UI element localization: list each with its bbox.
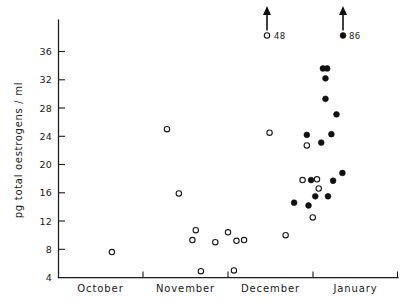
data-point-filled <box>330 178 336 184</box>
data-point-filled <box>291 200 297 206</box>
data-point-open <box>225 230 230 235</box>
scatter-plot: 36 32 28 24 20 16 12 8 4 pg total oestro… <box>0 0 411 308</box>
data-point-filled <box>318 140 324 146</box>
data-point-filled <box>324 66 330 72</box>
data-point-filled <box>334 111 340 117</box>
data-point-open <box>176 191 181 196</box>
x-axis-tick-labels: October November December January <box>77 283 377 294</box>
data-point-open <box>264 33 269 38</box>
data-point-open <box>314 177 319 182</box>
data-point-filled <box>329 131 335 137</box>
x-tick-label-january: January <box>332 283 377 294</box>
data-point-filled <box>325 193 331 199</box>
data-point-open <box>198 268 203 273</box>
y-tick-label-16: 16 <box>40 187 53 198</box>
annotation-offscale-48: 48 <box>263 6 286 41</box>
data-point-open <box>267 130 272 135</box>
chart-figure: 36 32 28 24 20 16 12 8 4 pg total oestro… <box>0 0 411 308</box>
y-tick-label-24: 24 <box>40 131 53 142</box>
y-tick-label-36: 36 <box>40 46 53 57</box>
y-tick-label-12: 12 <box>40 216 53 227</box>
annotation-offscale-86: 86 <box>339 6 361 41</box>
data-point-filled <box>340 170 346 176</box>
data-point-open <box>231 268 236 273</box>
data-point-open <box>283 232 288 237</box>
annotation-label-86: 86 <box>349 31 361 41</box>
data-point-open <box>164 126 169 131</box>
arrow-up-icon <box>339 6 347 15</box>
y-tick-label-4: 4 <box>46 272 52 283</box>
data-point-open <box>193 227 198 232</box>
x-tick-label-october: October <box>77 283 123 294</box>
arrow-up-icon <box>263 6 271 15</box>
data-point-filled <box>312 193 318 199</box>
data-point-open <box>300 177 305 182</box>
data-point-filled <box>306 203 312 209</box>
y-tick-label-8: 8 <box>46 244 52 255</box>
data-point-open <box>109 249 114 254</box>
data-point-open <box>213 239 218 244</box>
data-point-filled <box>323 75 329 81</box>
data-point-open <box>316 186 321 191</box>
y-axis-tick-labels: 36 32 28 24 20 16 12 8 4 <box>40 46 53 283</box>
y-tick-label-28: 28 <box>40 103 53 114</box>
y-axis-title: pg total oestrogens / ml <box>13 82 24 218</box>
x-axis-ticks <box>143 272 398 278</box>
y-tick-label-20: 20 <box>40 159 53 170</box>
data-point-open <box>234 238 239 243</box>
data-point-filled <box>323 96 329 102</box>
annotation-label-48: 48 <box>274 31 286 41</box>
x-tick-label-november: November <box>156 283 215 294</box>
data-point-filled <box>340 33 346 39</box>
y-axis-ticks <box>59 52 66 250</box>
data-point-open <box>304 143 309 148</box>
data-point-filled <box>304 132 310 138</box>
data-point-open <box>241 237 246 242</box>
data-point-open <box>190 237 195 242</box>
data-point-filled <box>308 177 314 183</box>
x-tick-label-december: December <box>241 283 300 294</box>
data-points-layer <box>109 66 345 274</box>
data-point-open <box>310 215 315 220</box>
y-tick-label-32: 32 <box>40 74 53 85</box>
